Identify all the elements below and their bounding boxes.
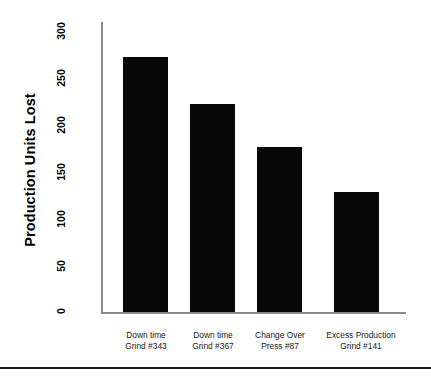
y-tick-label-200: 200 [54,110,68,140]
y-axis-title: Production Units Lost [18,60,42,280]
plot-area [101,22,406,314]
y-tick-label-100: 100 [54,204,68,234]
bar-down-time-grind-367 [190,104,235,312]
x-label-3: Excess Production Grind #141 [306,330,416,353]
bar-down-time-grind-343 [123,57,168,312]
y-tick-label-0: 0 [54,296,68,326]
bottom-divider-rule [0,367,431,369]
x-label-3-line2: Grind #141 [306,341,416,352]
y-tick-label-250: 250 [54,63,68,93]
bar-chart-figure: Production Units Lost 300 250 200 150 10… [0,0,431,380]
x-axis-line [101,312,406,314]
y-tick-label-50: 50 [54,251,68,281]
y-axis-line [101,22,103,313]
bar-excess-production-grind-141 [334,192,379,312]
y-tick-label-300: 300 [54,16,68,46]
x-label-3-line1: Excess Production [306,330,416,341]
bar-change-over-press-87 [257,147,302,312]
y-tick-label-150: 150 [54,157,68,187]
